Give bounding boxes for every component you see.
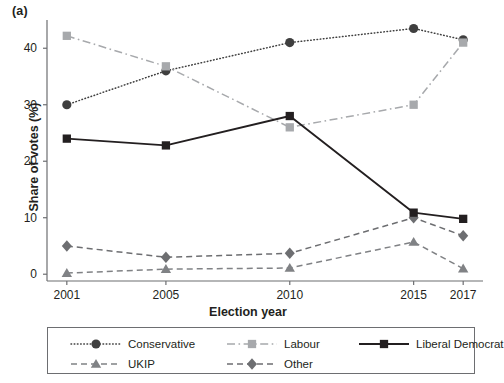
x-tick-label: 2010: [260, 289, 320, 301]
series-line-conservative: [67, 28, 463, 104]
legend-label: Conservative: [128, 337, 195, 351]
series-line-other: [67, 218, 463, 258]
legend-label: Labour: [284, 337, 320, 351]
y-tick-label: 0: [9, 268, 37, 280]
legend-swatch-square-icon: [226, 337, 278, 351]
x-axis-title: Election year: [0, 305, 496, 319]
legend-label: Other: [284, 357, 313, 371]
series-markers-conservative: [62, 24, 468, 109]
series-line-liberal-democrat: [67, 116, 463, 219]
y-tick-label: 40: [9, 42, 37, 54]
legend-label: Liberal Democrat: [416, 337, 504, 351]
series-line-ukip: [67, 242, 463, 273]
legend-label: UKIP: [128, 357, 155, 371]
legend-swatch-diamond-icon: [226, 357, 278, 371]
y-tick-label: 20: [9, 155, 37, 167]
legend-swatch-square-icon: [358, 337, 410, 351]
legend-swatch-circle-icon: [70, 337, 122, 351]
x-tick-label: 2017: [433, 289, 493, 301]
legend-swatch-triangle-icon: [70, 357, 122, 371]
x-tick-label: 2001: [37, 289, 97, 301]
x-tick-label: 2005: [136, 289, 196, 301]
chart-legend: ConservativeUKIPLabourOtherLiberal Democ…: [47, 327, 475, 374]
series-line-labour: [67, 36, 463, 128]
y-tick-label: 10: [9, 212, 37, 224]
y-tick-label: 30: [9, 99, 37, 111]
series-markers-labour: [63, 32, 468, 132]
